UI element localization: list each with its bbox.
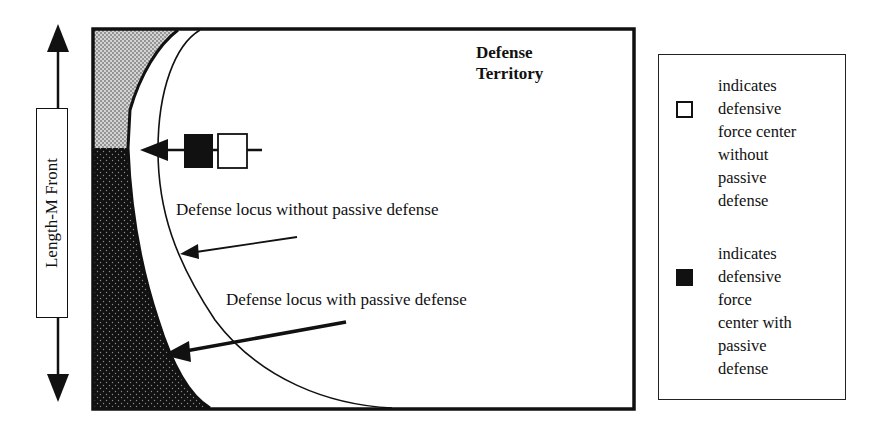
- filled-force-center-marker: [184, 134, 213, 168]
- open-force-center-marker: [218, 134, 247, 168]
- legend-text-filled: indicates defensive force center with pa…: [718, 242, 792, 380]
- arrow-to-locus-with: [163, 322, 346, 362]
- arrow-to-locus-without: [180, 237, 297, 259]
- locus-without-label: Defense locus without passive defense: [176, 200, 438, 220]
- legend: indicates defensive force center without…: [658, 54, 846, 400]
- locus-with-label: Defense locus with passive defense: [226, 290, 467, 310]
- defense-territory-title: Defense Territory: [476, 42, 543, 84]
- front-length-label: Length-M Front: [42, 158, 62, 268]
- legend-text-open: indicates defensive force center without…: [718, 74, 796, 212]
- territory-title-line2: Territory: [476, 63, 543, 84]
- front-length-label-box: Length-M Front: [36, 108, 68, 318]
- territory-title-line1: Defense: [476, 42, 543, 63]
- dark-stipple-region: [94, 148, 210, 408]
- open-square-icon: [676, 101, 693, 118]
- filled-square-icon: [676, 269, 693, 286]
